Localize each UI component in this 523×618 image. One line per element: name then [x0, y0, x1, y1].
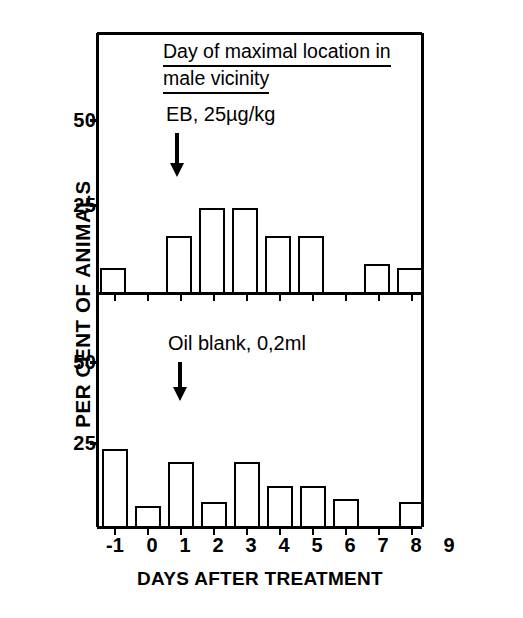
lower-panel-bars — [103, 450, 422, 527]
bar-lower-day-5 — [301, 487, 325, 527]
bar-lower-day-4 — [268, 487, 292, 527]
bar-upper-day-5 — [299, 237, 323, 293]
upper-panel-arrow-group — [170, 133, 184, 177]
bar-lower-day-2 — [202, 503, 226, 527]
bar-lower-day-0 — [136, 507, 160, 527]
bar-upper-day-7 — [365, 265, 389, 293]
lower-panel-arrow-group — [173, 362, 187, 401]
bar-upper-day-2 — [200, 209, 224, 293]
plot-vector-layer — [0, 0, 523, 618]
bar-lower-day--1 — [103, 450, 127, 527]
bar-lower-day-1 — [169, 463, 193, 527]
bar-upper-day-8 — [398, 269, 422, 293]
bar-lower-day-9 — [400, 503, 422, 527]
down-arrow-icon-upper-head — [170, 163, 184, 177]
bar-upper-day-3 — [233, 209, 257, 293]
figure-container: PER CENT OF ANIMALS 50 25 50 25 -1 0 1 2… — [0, 0, 523, 618]
bar-lower-day-3 — [235, 463, 259, 527]
bar-lower-day-6 — [334, 500, 358, 527]
upper-panel-bars — [101, 209, 422, 293]
bar-upper-day-1 — [167, 237, 191, 293]
down-arrow-icon-lower-head — [173, 387, 187, 401]
bar-upper-day--1 — [101, 269, 125, 293]
bar-upper-day-4 — [266, 237, 290, 293]
plot-frame — [97, 33, 422, 527]
